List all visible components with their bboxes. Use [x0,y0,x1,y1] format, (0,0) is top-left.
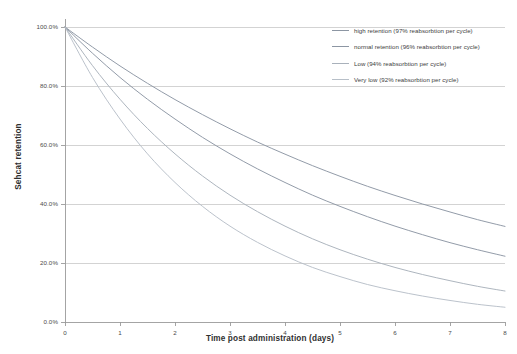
legend-item-label: normal retention (96% reabsorbtion per c… [354,42,480,51]
y-tick-label: 100.0% [18,23,58,30]
x-axis-title: Time post administration (days) [60,334,480,343]
y-tick-label: 20.0% [18,259,58,266]
y-tick-label: 60.0% [18,141,58,148]
legend-line-icon [332,30,349,31]
legend-item[interactable]: Very low (92% reabsorbtion per cycle) [332,75,512,84]
legend-item[interactable]: Low (94% reabsorbtion per cycle) [332,59,512,68]
x-tick-label: 8 [495,329,515,336]
legend-item[interactable]: high retention (97% reabsorbtion per cyc… [332,26,512,35]
y-tick-label: 80.0% [18,82,58,89]
legend-item-label: Very low (92% reabsorbtion per cycle) [354,75,458,84]
legend-line-icon [332,63,349,64]
legend-item-label: Low (94% reabsorbtion per cycle) [354,59,446,68]
y-tick-label: 0.0% [18,318,58,325]
y-tick-label: 40.0% [18,200,58,207]
y-axis-title: Sehcat retention [14,102,23,212]
legend-item[interactable]: normal retention (96% reabsorbtion per c… [332,42,512,51]
legend-line-icon [332,79,349,80]
chart-legend: high retention (97% reabsorbtion per cyc… [332,26,512,92]
legend-line-icon [332,46,349,47]
legend-item-label: high retention (97% reabsorbtion per cyc… [354,26,473,35]
retention-decay-chart: 100.0%80.0%60.0%40.0%20.0%0.0% 012345678… [0,0,517,354]
